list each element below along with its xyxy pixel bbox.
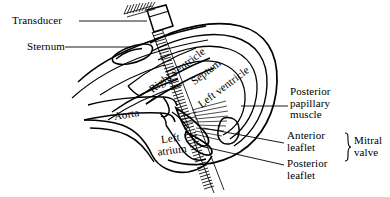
label-mitral-valve-line2: valve bbox=[354, 147, 382, 159]
label-posterior-leaflet: Posterior leaflet bbox=[287, 158, 328, 181]
label-posterior-leaflet-line2: leaflet bbox=[287, 170, 328, 182]
label-sternum: Sternum bbox=[27, 41, 65, 53]
diagram-canvas bbox=[0, 0, 390, 197]
label-transducer: Transducer bbox=[12, 15, 62, 27]
chest-wall bbox=[72, 26, 208, 120]
echocardiography-diagram: Transducer Sternum Right ventricle Septu… bbox=[0, 0, 390, 197]
label-anterior-leaflet: Anterior leaflet bbox=[287, 130, 325, 153]
label-posterior-papillary-line1: Posterior bbox=[290, 86, 331, 98]
label-mitral-valve-line1: Mitral bbox=[354, 135, 382, 147]
label-anterior-leaflet-line1: Anterior bbox=[287, 130, 325, 142]
label-anterior-leaflet-line2: leaflet bbox=[287, 142, 325, 154]
label-mitral-valve: Mitral valve bbox=[354, 135, 382, 158]
label-posterior-papillary-muscle: Posterior papillary muscle bbox=[290, 86, 331, 121]
label-posterior-papillary-line3: muscle bbox=[290, 109, 331, 121]
label-posterior-leaflet-line1: Posterior bbox=[287, 158, 328, 170]
transducer-probe bbox=[124, 2, 173, 32]
label-left-atrium: Left atrium bbox=[155, 131, 187, 158]
mitral-valve-brace bbox=[345, 133, 351, 161]
